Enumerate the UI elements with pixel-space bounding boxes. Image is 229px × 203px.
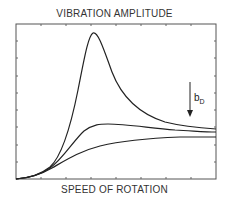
arrow-down-icon xyxy=(187,82,193,117)
y-ticks xyxy=(16,41,216,162)
curve-high-damping xyxy=(16,137,216,179)
curve-low-damping xyxy=(16,33,216,179)
annotation-subscript: D xyxy=(200,98,205,105)
damping-annotation: bD xyxy=(194,92,205,105)
x-axis-label: SPEED OF ROTATION xyxy=(0,184,229,195)
axes-box xyxy=(16,24,216,179)
